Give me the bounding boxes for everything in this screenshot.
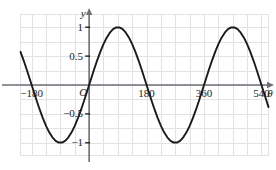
x-axis-label: θ (267, 87, 273, 99)
x-tick-label: 360 (196, 87, 213, 99)
y-tick-label: −0.5 (63, 107, 83, 119)
y-tick-label: −1 (71, 136, 83, 148)
y-tick-label: 1 (78, 21, 84, 33)
y-tick-label: 0.5 (69, 50, 83, 62)
y-axis-label: y (80, 7, 86, 19)
x-tick-label: −180 (20, 87, 43, 99)
sine-curve-chart: −18018036054010.5−0.5−1 θ y O (0, 0, 276, 170)
origin-label: O (79, 86, 87, 98)
x-tick-label: 180 (138, 87, 155, 99)
sine-graph-figure: −18018036054010.5−0.5−1 θ y O (0, 0, 276, 170)
